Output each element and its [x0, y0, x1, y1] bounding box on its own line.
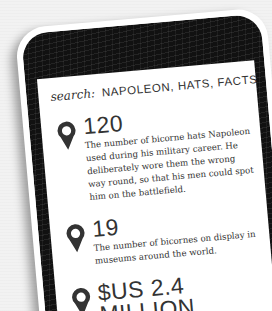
- map-pin-icon: [55, 120, 80, 152]
- fact-item: 19 The number of bicornes on display in …: [61, 204, 261, 271]
- fact-description: The number of bicorne hats Napoleon used…: [84, 125, 255, 204]
- search-label: search:: [50, 86, 96, 104]
- map-pin-icon: [69, 286, 94, 311]
- fact-item: 120 The number of bicorne hats Napoleon …: [52, 101, 255, 207]
- phone-illustration: search: NAPOLEON, HATS, FACTS 120 The nu…: [14, 7, 272, 311]
- search-bar: search: NAPOLEON, HATS, FACTS: [50, 73, 246, 104]
- fact-value: $US 2.4 MILLION: [97, 267, 266, 311]
- phone-screen: search: NAPOLEON, HATS, FACTS 120 The nu…: [37, 60, 272, 311]
- fact-item: $US 2.4 MILLION The amount of money paid…: [67, 267, 270, 311]
- search-query: NAPOLEON, HATS, FACTS: [101, 73, 258, 99]
- map-pin-icon: [64, 223, 89, 255]
